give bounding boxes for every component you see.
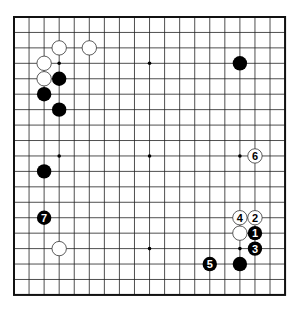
- star-point: [57, 154, 61, 158]
- move-number: 6: [252, 150, 258, 162]
- black-stone: [37, 164, 51, 178]
- black-stone: [37, 87, 51, 101]
- black-stone-3: 3: [248, 241, 262, 255]
- move-number: 4: [237, 212, 244, 224]
- move-number: 1: [252, 227, 258, 239]
- white-stone-6: 6: [248, 149, 262, 163]
- white-stone: [233, 226, 247, 240]
- white-stone: [52, 41, 66, 55]
- move-number: 2: [252, 212, 258, 224]
- white-stone: [37, 72, 51, 86]
- star-point: [238, 247, 242, 251]
- go-board: 7642135: [0, 0, 299, 309]
- white-stone: [82, 41, 96, 55]
- black-stone: [233, 257, 247, 271]
- white-stone-4: 4: [233, 211, 247, 225]
- star-point: [148, 247, 152, 251]
- star-point: [238, 154, 242, 158]
- star-point: [148, 62, 152, 66]
- move-number: 5: [207, 258, 213, 270]
- white-stone-2: 2: [248, 211, 262, 225]
- move-number: 7: [41, 212, 47, 224]
- black-stone-7: 7: [37, 211, 51, 225]
- star-point: [148, 154, 152, 158]
- white-stone: [52, 241, 66, 255]
- white-stone: [37, 56, 51, 70]
- star-point: [57, 62, 61, 66]
- black-stone: [52, 102, 66, 116]
- black-stone: [233, 56, 247, 70]
- black-stone-5: 5: [203, 257, 217, 271]
- move-number: 3: [252, 243, 258, 255]
- black-stone: [52, 72, 66, 86]
- black-stone-1: 1: [248, 226, 262, 240]
